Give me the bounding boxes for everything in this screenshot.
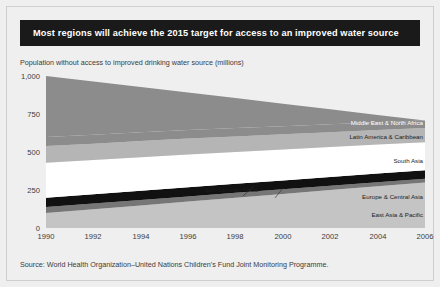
x-tick-label-1996: 1996 [168, 232, 208, 241]
x-tick-label-2004: 2004 [358, 232, 398, 241]
x-tick-label-2000: 2000 [263, 232, 303, 241]
chart-title-bar: Most regions will achieve the 2015 targe… [20, 20, 420, 46]
x-tick-label-2002: 2002 [310, 232, 350, 241]
series-label-latin-america-caribbean: Latin America & Caribbean [290, 133, 423, 140]
x-tick-label-1992: 1992 [73, 232, 113, 241]
y-tick-label-1000: 1,000 [6, 72, 40, 81]
plot-area [46, 76, 425, 228]
series-label-sub-saharan-africa: Sub-Saharan Africa [160, 186, 258, 193]
series-label-middle-east-north-africa: Middle East & North Africa [290, 119, 423, 126]
series-label-south-asia: South Asia [290, 157, 423, 164]
chart-subtitle: Population without access to improved dr… [20, 58, 244, 67]
y-tick-label-500: 500 [6, 148, 40, 157]
chart-figure: Most regions will achieve the 2015 targe… [0, 0, 440, 287]
page-title: Most regions will achieve the 2015 targe… [20, 28, 399, 38]
series-label-east-asia-pacific: East Asia & Pacific [290, 211, 423, 218]
x-tick-label-1990: 1990 [26, 232, 66, 241]
series-label-europe-central-asia: Europe & Central Asia [290, 193, 423, 200]
x-tick-label-1998: 1998 [215, 232, 255, 241]
x-tick-label-1994: 1994 [121, 232, 161, 241]
y-tick-label-250: 250 [6, 186, 40, 195]
stacked-area-svg [46, 76, 425, 228]
x-tick-label-2006: 2006 [405, 232, 440, 241]
y-tick-label-750: 750 [6, 110, 40, 119]
source-note: Source: World Health Organization–United… [20, 260, 328, 269]
